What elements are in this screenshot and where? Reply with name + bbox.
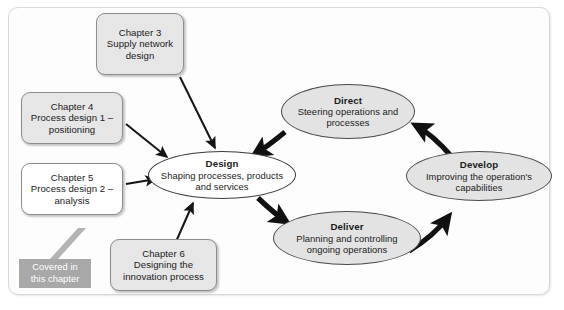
chapter-5-title: Chapter 5	[51, 172, 94, 183]
cycle-node-direct[interactable]: Direct Steering operations and processes	[281, 84, 415, 139]
cycle-node-develop[interactable]: Develop Improving the operation's capabi…	[406, 151, 552, 201]
design-title: Design	[206, 158, 239, 169]
chapter-4-subtitle: Process design 1 – positioning	[27, 112, 117, 135]
figure-canvas: Chapter 3 Supply network design Chapter …	[0, 0, 564, 310]
chapter-6-subtitle: Designing the innovation process	[116, 259, 211, 282]
chapter-3-title: Chapter 3	[119, 27, 162, 38]
covered-in-this-chapter-badge: Covered in this chapter	[19, 259, 91, 288]
design-subtitle: Shaping processes, products and services	[154, 170, 290, 192]
direct-title: Direct	[334, 95, 362, 106]
callout-line-2: this chapter	[31, 274, 80, 286]
callout-line-1: Covered in	[32, 262, 77, 274]
cycle-node-deliver[interactable]: Deliver Planning and controlling ongoing…	[273, 211, 421, 265]
develop-subtitle: Improving the operation's capabilities	[413, 171, 545, 193]
chapter-4-title: Chapter 4	[51, 101, 94, 112]
chapter-5-subtitle: Process design 2 – analysis	[27, 183, 117, 206]
chapter-box-chapter-5[interactable]: Chapter 5 Process design 2 – analysis	[21, 163, 123, 215]
deliver-title: Deliver	[330, 221, 363, 232]
chapter-box-chapter-6[interactable]: Chapter 6 Designing the innovation proce…	[110, 239, 217, 291]
chapter-3-subtitle: Supply network design	[102, 38, 178, 61]
chapter-6-title: Chapter 6	[142, 248, 185, 259]
cycle-node-design[interactable]: Design Shaping processes, products and s…	[148, 151, 296, 199]
deliver-subtitle: Planning and controlling ongoing operati…	[283, 233, 411, 255]
direct-subtitle: Steering operations and processes	[296, 106, 400, 128]
chapter-box-chapter-3[interactable]: Chapter 3 Supply network design	[96, 13, 184, 75]
develop-title: Develop	[460, 159, 498, 170]
chapter-box-chapter-4[interactable]: Chapter 4 Process design 1 – positioning	[21, 92, 123, 144]
